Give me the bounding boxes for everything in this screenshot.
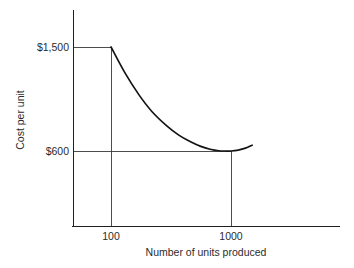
x-tick-label-100: 100 [102,230,120,242]
x-tick-label-1000: 1000 [219,230,243,242]
y-tick-label-1500: $1,500 [37,41,69,53]
y-tick-label-600: $600 [46,145,70,157]
x-axis-title: Number of units produced [146,246,267,258]
y-axis-title: Cost per unit [14,90,26,150]
cost-per-unit-chart: $1,500 $600 100 1000 Cost per unit Numbe… [0,0,354,268]
chart-canvas: $1,500 $600 100 1000 Cost per unit Numbe… [0,0,354,268]
